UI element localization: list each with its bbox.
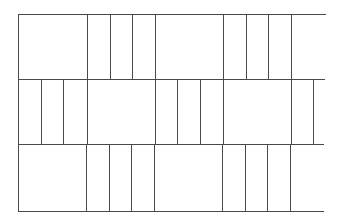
brick-joint [222,144,223,212]
brick-joint [131,144,132,212]
brick-joint [291,79,292,145]
brick-joint [132,14,133,80]
brick-joint [110,14,111,80]
brick-joint [245,144,246,212]
brick-joint [41,79,42,145]
brick-joint [267,144,268,212]
brick-joint [87,14,88,80]
row-top-edge [18,144,324,145]
brick-joint [268,14,269,80]
brick-joint [177,79,178,145]
row-top-edge [18,14,326,15]
row-left-edge [18,14,19,80]
brick-joint [63,79,64,145]
row-left-edge [18,144,19,212]
row-bottom-edge [18,211,324,212]
brick-joint [154,144,155,212]
row-top-edge [18,79,325,80]
row-left-edge [18,79,19,145]
brick-joint [109,144,110,212]
brick-joint [223,14,224,80]
brick-joint [246,14,247,80]
brick-joint [223,79,224,145]
brick-joint [313,79,314,145]
brick-joint [291,14,292,80]
brick-joint [290,144,291,212]
brick-joint [87,79,88,145]
brick-joint [155,14,156,80]
brick-joint [155,79,156,145]
brick-joint [86,144,87,212]
brick-joint [200,79,201,145]
brick-pattern-diagram [0,0,339,221]
